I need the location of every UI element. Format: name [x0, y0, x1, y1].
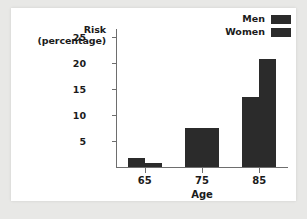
x-tick-label: 65 — [125, 176, 165, 186]
legend-swatch — [271, 15, 291, 24]
y-tick-label: 15 — [46, 85, 86, 95]
x-tick-mark — [202, 168, 203, 173]
x-tick-mark — [145, 168, 146, 173]
bar — [202, 128, 219, 167]
legend-item: Men — [225, 14, 291, 24]
legend-swatch — [271, 28, 291, 37]
chart-legend: MenWomen — [225, 14, 291, 37]
y-tick-mark — [112, 141, 117, 142]
y-axis-line — [116, 29, 117, 168]
x-axis-label: Age — [116, 189, 288, 200]
x-tick-label: 85 — [239, 176, 279, 186]
x-tick-label: 75 — [182, 176, 222, 186]
y-tick-mark — [112, 115, 117, 116]
bar — [145, 163, 162, 167]
chart-figure: Risk (percentage) 510152025 657585 Age M… — [11, 8, 296, 201]
legend-label: Men — [242, 14, 265, 24]
legend-item: Women — [225, 27, 291, 37]
y-tick-mark — [112, 89, 117, 90]
bar — [128, 158, 145, 167]
y-tick-label: 10 — [46, 111, 86, 121]
bar — [242, 97, 259, 167]
y-tick-label: 25 — [46, 33, 86, 43]
y-tick-label: 5 — [46, 137, 86, 147]
x-tick-mark — [259, 168, 260, 173]
y-tick-mark — [112, 37, 117, 38]
y-tick-label: 20 — [46, 59, 86, 69]
y-tick-mark — [112, 63, 117, 64]
legend-label: Women — [225, 27, 265, 37]
bar — [185, 128, 202, 167]
bar — [259, 59, 276, 167]
